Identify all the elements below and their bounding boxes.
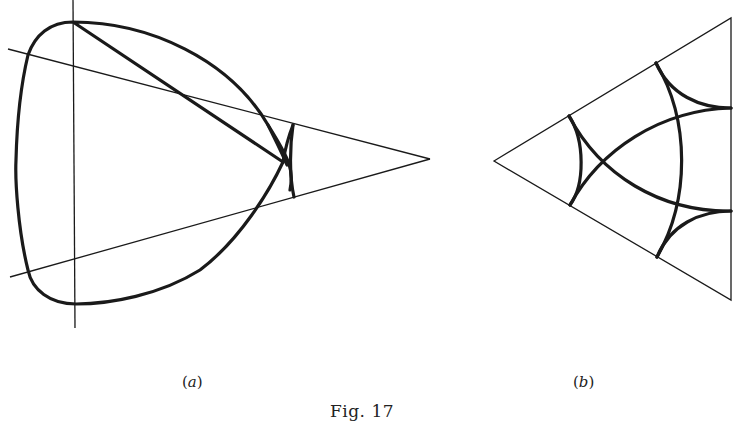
arc-upper-left-to-lower-right: [569, 116, 731, 211]
oval-curve: [16, 22, 292, 304]
upper-tangent-line: [8, 49, 430, 159]
figure-canvas: [0, 0, 734, 424]
lower-tangent-line: [10, 159, 430, 277]
triangle-outline: [494, 18, 731, 300]
label-letter: a: [188, 373, 197, 391]
label-paren-close: ): [588, 373, 594, 391]
vertical-axis-line: [73, 0, 75, 328]
figure-caption: Fig. 17: [330, 401, 394, 421]
arc-lower-left-to-upper-right: [570, 108, 731, 205]
panel-a-label: (a): [182, 373, 203, 391]
cusp-small-curve: [291, 125, 295, 197]
panel-b-drawing: [494, 18, 731, 300]
label-paren-close: ): [197, 373, 203, 391]
panel-a-drawing: [8, 0, 430, 328]
panel-b-label: (b): [573, 373, 594, 391]
